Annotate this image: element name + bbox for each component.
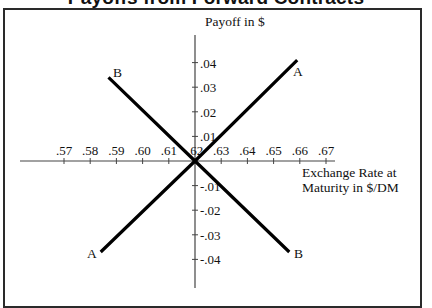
x-tick-label: .61 bbox=[161, 143, 177, 158]
x-tick-label: .60 bbox=[134, 143, 150, 158]
y-tick-label: .04 bbox=[200, 56, 217, 71]
x-tick-label: .63 bbox=[213, 143, 229, 158]
line-b-top-label: B bbox=[113, 65, 122, 80]
line-a-top-label: A bbox=[293, 64, 303, 79]
y-tick-label: .03 bbox=[200, 80, 216, 95]
x-tick-label: .65 bbox=[265, 143, 281, 158]
x-tick-label: .58 bbox=[82, 143, 98, 158]
series-line-b bbox=[109, 77, 290, 252]
y-tick-label: -.02 bbox=[200, 203, 221, 218]
y-tick-label: -.03 bbox=[200, 228, 221, 243]
x-tick-label: .59 bbox=[108, 143, 124, 158]
x-tick-label: .64 bbox=[239, 143, 256, 158]
y-tick-label: -.04 bbox=[200, 252, 221, 267]
x-axis-title-line2: Maturity in $/DM bbox=[302, 180, 399, 195]
x-axis-title-line1: Exchange Rate at bbox=[302, 165, 397, 180]
x-tick-label: .67 bbox=[318, 143, 335, 158]
y-axis-title: Payoff in $ bbox=[205, 14, 265, 29]
line-a-bottom-label: A bbox=[87, 246, 97, 261]
y-tick-label: .02 bbox=[200, 105, 216, 120]
line-b-bottom-label: B bbox=[294, 246, 303, 261]
x-tick-label: .66 bbox=[292, 143, 309, 158]
x-tick-label: .57 bbox=[56, 143, 73, 158]
